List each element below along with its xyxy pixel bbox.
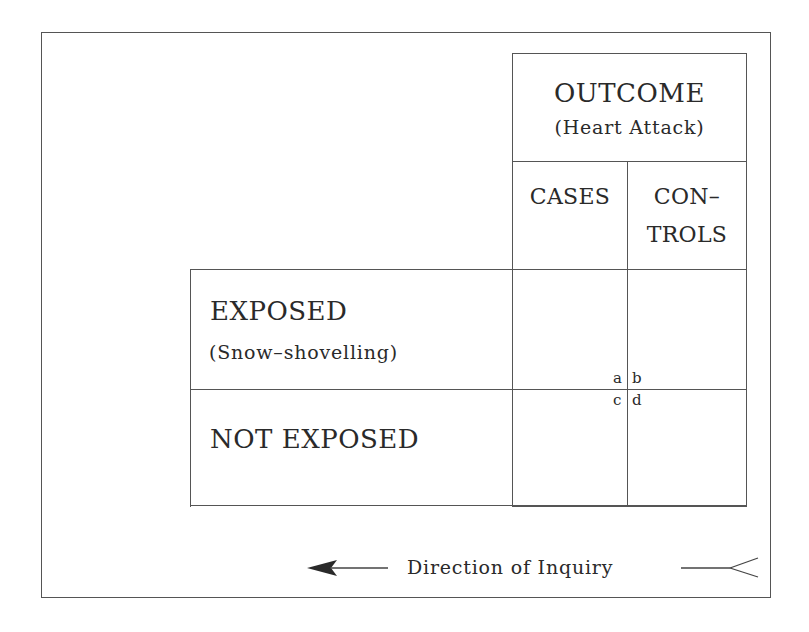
direction-label: Direction of Inquiry bbox=[407, 558, 613, 577]
direction-arrow-graphics bbox=[0, 0, 809, 632]
left-arrow-icon bbox=[307, 560, 388, 576]
arrow-tail-icon bbox=[681, 558, 758, 577]
